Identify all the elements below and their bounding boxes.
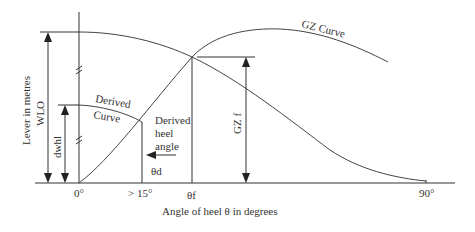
derived-heel-label-3: angle bbox=[155, 140, 179, 152]
wlo-label: WLO bbox=[34, 101, 46, 126]
tick-label-90: 90° bbox=[419, 187, 434, 199]
tick-label-theta-f: θf bbox=[187, 189, 196, 201]
wind-lever-curve bbox=[79, 32, 426, 181]
left-arrow-icon bbox=[146, 151, 176, 159]
theta-d-label: θd bbox=[151, 165, 162, 177]
gzf-dimension-arrow bbox=[242, 57, 250, 183]
derived-heel-label-1: Derived bbox=[155, 114, 191, 126]
y-axis-label: Lever in metres bbox=[20, 76, 32, 145]
gzf-label: GZ f bbox=[231, 113, 243, 134]
x-axis-label: Angle of heel θ in degrees bbox=[162, 205, 278, 217]
dwhl-label: dwhl bbox=[51, 136, 63, 158]
tick-label-15: > 15° bbox=[128, 187, 152, 199]
tick-label-0: 0° bbox=[74, 187, 84, 199]
stability-diagram: GZ Curve Derived Curve Derived heel angl… bbox=[0, 0, 475, 232]
derived-curve-label-2: Curve bbox=[93, 108, 122, 125]
derived-heel-label-2: heel bbox=[155, 127, 173, 139]
